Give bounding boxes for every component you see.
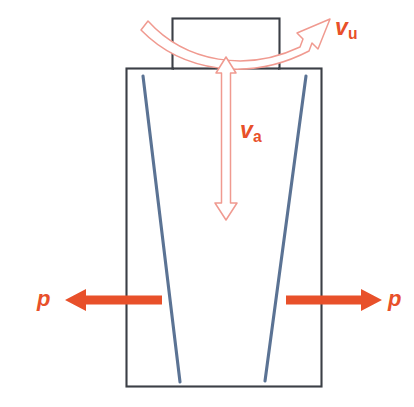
diagram-svg xyxy=(0,0,414,407)
label-velocity-a-symbol: v xyxy=(240,117,253,143)
label-velocity-a: va xyxy=(240,119,262,142)
diagram-canvas: vu va p p xyxy=(0,0,414,407)
label-velocity-u: vu xyxy=(335,16,357,39)
label-pressure-left-symbol: p xyxy=(37,286,50,311)
label-velocity-u-subscript: u xyxy=(348,25,358,42)
label-pressure-left: p xyxy=(37,288,50,310)
label-pressure-right: p xyxy=(388,288,401,310)
label-velocity-a-subscript: a xyxy=(253,128,262,145)
label-velocity-u-symbol: v xyxy=(335,14,348,40)
label-pressure-right-symbol: p xyxy=(388,286,401,311)
